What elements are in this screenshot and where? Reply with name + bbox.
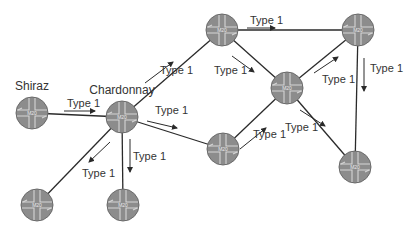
link-label: Type 1: [67, 97, 100, 109]
router-bottom-right[interactable]: M20: [339, 151, 371, 183]
link-label: Type 1: [250, 14, 283, 26]
arrow-icon: [89, 142, 110, 162]
arrow-icon: [314, 57, 338, 73]
link-label: Type 1: [160, 64, 193, 76]
router-model-label: M20: [117, 114, 127, 120]
router-center-bottom[interactable]: M20: [207, 133, 239, 165]
links: [32, 30, 358, 205]
link-label: Type 1: [155, 104, 188, 116]
router-model-label: M20: [118, 202, 128, 208]
router-model-label: M20: [27, 110, 37, 116]
link-chardonnay-to-bottom-left: [37, 117, 122, 205]
link-label: Type 1: [214, 64, 247, 76]
link-label: Type 1: [285, 121, 318, 133]
router-model-label: M20: [32, 202, 42, 208]
router-name-label: Shiraz: [15, 79, 49, 93]
link-label: Type 1: [370, 62, 403, 74]
router-name-label: Chardonnay: [89, 83, 154, 97]
link-label: Type 1: [322, 73, 355, 85]
link-label: Type 1: [82, 167, 115, 179]
link-label: Type 1: [253, 128, 286, 140]
routers: M20ShirazM20ChardonnayM20M20M20M20M20M20…: [15, 14, 374, 221]
router-shiraz[interactable]: M20Shiraz: [15, 79, 49, 129]
router-middle-right[interactable]: M20: [271, 72, 303, 104]
router-model-label: M20: [282, 85, 292, 91]
router-model-label: M20: [350, 164, 360, 170]
router-model-label: M20: [353, 27, 363, 33]
router-bottom-mid[interactable]: M20: [107, 189, 139, 221]
router-top-right[interactable]: M20: [342, 14, 374, 46]
router-top-center[interactable]: M20: [206, 14, 238, 46]
router-model-label: M20: [217, 27, 227, 33]
link-label: Type 1: [133, 150, 166, 162]
network-diagram: Type 1Type 1Type 1Type 1Type 1Type 1Type…: [0, 0, 410, 230]
router-bottom-left[interactable]: M20: [21, 189, 53, 221]
router-model-label: M20: [218, 146, 228, 152]
link-top-right-to-bottom-right: [355, 30, 358, 167]
